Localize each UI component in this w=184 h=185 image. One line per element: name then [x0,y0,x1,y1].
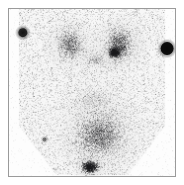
scan-image-frame[interactable] [8,8,176,177]
scan-viewer [0,0,184,185]
scintigram-heatmap-canvas[interactable] [9,9,175,176]
